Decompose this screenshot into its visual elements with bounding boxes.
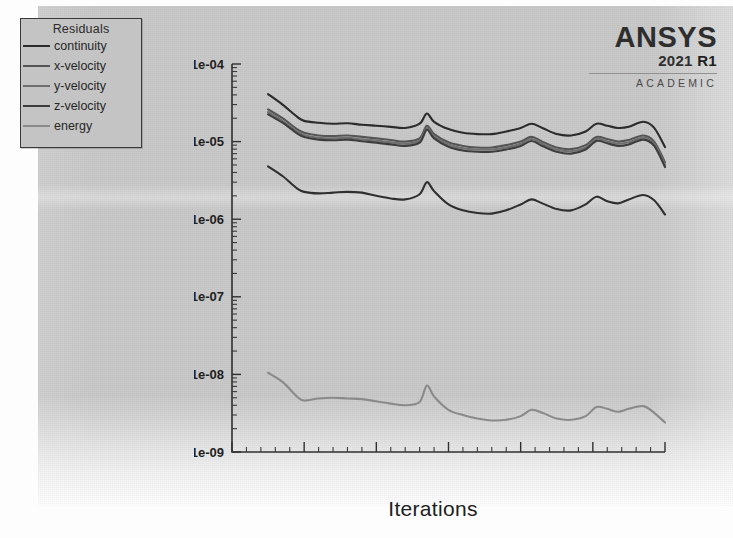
legend-title: Residuals xyxy=(21,22,141,36)
legend-item-label: y-velocity xyxy=(54,79,106,93)
screenshot-root: Residuals continuityx-velocityy-velocity… xyxy=(0,0,733,538)
legend-item-y-velocity[interactable]: y-velocity xyxy=(21,76,141,96)
plot-axes xyxy=(232,64,665,452)
x-axis-title: Iterations xyxy=(194,497,672,521)
legend-item-label: z-velocity xyxy=(54,99,106,113)
logo-brand: ANSYS xyxy=(589,24,717,52)
y-tick-label: 1e-05 xyxy=(194,134,224,149)
legend-rows: continuityx-velocityy-velocityz-velocity… xyxy=(21,36,141,136)
legend-item-z-velocity[interactable]: z-velocity xyxy=(21,96,141,116)
series-line-x-velocity xyxy=(268,109,665,162)
residuals-legend: Residuals continuityx-velocityy-velocity… xyxy=(20,18,142,148)
legend-item-label: energy xyxy=(54,119,92,133)
legend-item-energy[interactable]: energy xyxy=(21,116,141,136)
legend-item-continuity[interactable]: continuity xyxy=(21,36,141,56)
y-tick-label: 1e-07 xyxy=(194,289,224,304)
logo-release: R1 xyxy=(697,52,717,69)
plot-svg: 1e-041e-051e-061e-071e-081e-090100020003… xyxy=(194,56,672,460)
y-tick-label: 1e-06 xyxy=(194,212,224,227)
legend-color-swatch-icon xyxy=(23,105,50,107)
y-tick-label: 1e-08 xyxy=(194,367,224,382)
legend-item-label: continuity xyxy=(54,39,107,53)
residuals-plot: 1e-041e-051e-061e-071e-081e-090100020003… xyxy=(194,56,672,460)
legend-color-swatch-icon xyxy=(23,65,50,67)
legend-color-swatch-icon xyxy=(23,125,50,127)
legend-item-label: x-velocity xyxy=(54,59,106,73)
legend-color-swatch-icon xyxy=(23,85,50,87)
legend-item-x-velocity[interactable]: x-velocity xyxy=(21,56,141,76)
series-line-energy xyxy=(268,373,665,423)
series-line-continuity-lower-band xyxy=(268,166,665,214)
legend-color-swatch-icon xyxy=(23,45,50,47)
y-tick-label: 1e-09 xyxy=(194,445,224,460)
y-tick-label: 1e-04 xyxy=(194,57,225,72)
